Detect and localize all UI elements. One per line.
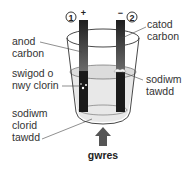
chlorine-bubble (80, 83, 82, 85)
electrolyte-label-line: tawdd (12, 131, 40, 143)
sodium-label-line: sodiwm (146, 73, 182, 85)
electrolysis-diagram: 1 + 2 − anod carbon catod carbon swigod … (0, 0, 195, 171)
electrolyte-label-line: sodiwm (12, 107, 48, 119)
electrolyte-label: sodiwm clorid tawdd (12, 107, 48, 143)
chlorine-bubble (85, 84, 87, 86)
chlorine-bubble (82, 87, 84, 89)
negative-sign: − (118, 8, 123, 18)
anode-electrode (79, 20, 88, 112)
positive-sign: + (81, 8, 86, 18)
anode-label-line: carbon (12, 47, 44, 59)
electrolyte-leader-line (42, 119, 92, 139)
electrode-2-number: 2 (129, 13, 134, 23)
chlorine-label-line: swigod o (12, 67, 54, 79)
cathode-label-line: carbon (147, 30, 179, 42)
cathode-label: catod carbon (147, 18, 179, 42)
sodium-label: sodiwm tawdd (146, 73, 182, 97)
heat-label: gwres (88, 149, 119, 161)
heat-arrow-icon (95, 127, 111, 146)
chlorine-label: swigod o nwy clorin (12, 67, 59, 91)
electrode-1-number: 1 (68, 13, 73, 23)
cathode-leader-line (122, 27, 146, 38)
anode-label-line: anod (12, 35, 36, 47)
electrolyte-label-line: clorid (12, 119, 37, 131)
anode-label: anod carbon (12, 35, 44, 59)
sodium-label-line: tawdd (146, 85, 174, 97)
chlorine-label-line: nwy clorin (12, 79, 59, 91)
cathode-label-line: catod (147, 18, 173, 30)
